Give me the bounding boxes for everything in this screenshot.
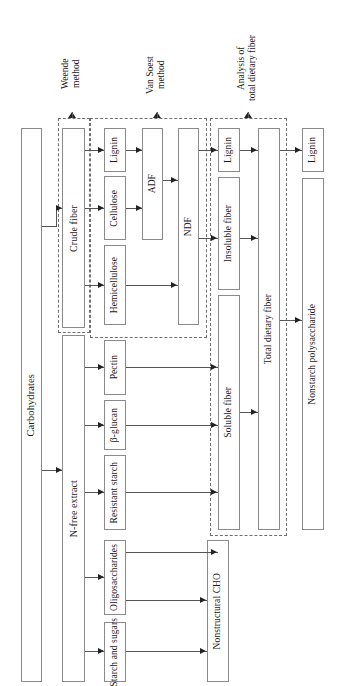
caption-van-soest-method: Van Soest method [145,40,171,110]
arrow-soluble-from-pectin [211,364,217,370]
arrow-nonstarch-polysaccharide [295,317,301,323]
node-label: Insoluble fiber [224,205,234,262]
node-label: Lignin [308,137,318,163]
caption-weende-method: Weende method [60,40,86,108]
arrow-lignin-2 [211,147,217,153]
node-carbohydrates[interactable]: Carbohydrates [21,128,42,682]
arrow-soluble-from-resistant-starch [211,489,217,495]
edge-oligos-to-soluble [126,552,218,553]
arrow-nonstructural-from-starch-sugars [200,648,206,654]
node-label: Lignin [110,137,120,163]
edge-beta-glucan-to-soluble [126,425,218,426]
node-nonstructural-cho[interactable]: Nonstructural CHO [207,540,229,682]
node-ndf[interactable]: NDF [178,128,199,325]
node-label: Oligosaccharides [110,544,120,611]
edge-carb-to-crude-fiber-riser [56,208,57,227]
edge-starch-sugars-to-nonstructural [126,651,207,652]
edge-pectin-to-soluble [126,367,218,368]
arrow-ndf-from-adf [171,177,177,183]
node-hemicellulose[interactable]: Hemicellulose [104,245,126,325]
node-label: NDF [184,217,194,236]
caption-stem-total-dietary-fiber [248,112,249,118]
node-label: ADF [148,174,158,193]
edge-carb-to-crude-fiber [42,226,56,227]
node-label: Nonstructural CHO [213,573,223,649]
node-lignin-1[interactable]: Lignin [104,128,126,172]
edge-oligos-to-nonstructural [126,600,207,601]
node-label: Crude fiber [69,205,79,252]
arrow-soluble-from-beta-glucan [211,422,217,428]
node-crude-fiber[interactable]: Crude fiber [62,128,85,328]
node-label: Lignin [224,137,234,163]
node-nonstarch-polysaccharide[interactable]: Nonstarch polysaccharide [302,178,324,530]
node-lignin-3[interactable]: Lignin [302,128,324,172]
arrow-adf-from-lignin [136,147,142,153]
node-label: Nonstarch polysaccharide [308,304,318,405]
node-label: Soluble fiber [224,387,234,438]
edge-resistant-starch-to-soluble [126,492,218,493]
node-cellulose[interactable]: Cellulose [104,176,126,240]
caption-stem-weende [72,112,73,118]
node-label: N-free extract [69,480,79,537]
node-total-dietary-fiber[interactable]: Total dietary fiber [258,128,280,530]
node-soluble-fiber[interactable]: Soluble fiber [218,295,240,530]
node-label: Cellulose [110,190,120,227]
node-label: Resistant starch [110,462,120,524]
arrow-nonstructural-from-oligos [200,597,206,603]
arrow-tdf-from-soluble [251,409,257,415]
node-adf[interactable]: ADF [142,128,163,240]
node-insoluble-fiber[interactable]: Insoluble fiber [218,177,240,290]
node-lignin-2[interactable]: Lignin [218,128,240,172]
node-label: Total dietary fiber [264,294,274,364]
node-resistant-starch[interactable]: Resistant starch [104,455,126,530]
arrow-ndf-from-hemicellulose [171,282,177,288]
arrow-insoluble-fiber [211,235,217,241]
node-label: Pectin [110,355,120,379]
node-oligosaccharides[interactable]: Oligosaccharides [104,540,126,615]
arrow-tdf-from-lignin2 [251,147,257,153]
node-label: Hemicellulose [110,257,120,313]
caption-analysis-total-dietary-fiber: Analysis of total dietary fiber [236,26,262,110]
node-label: Carbohydrates [26,374,37,437]
node-starch-and-sugars[interactable]: Starch and sugars [104,622,126,682]
node-n-free-extract[interactable]: N-free extract [62,335,85,682]
node-label: Starch and sugars [110,618,120,686]
arrow-soluble-from-oligos [211,549,217,555]
arrow-lignin-3 [295,147,301,153]
arrow-tdf-from-insoluble [251,235,257,241]
node-label: β-glucan [110,408,120,442]
node-beta-glucan[interactable]: β-glucan [104,400,126,450]
node-pectin[interactable]: Pectin [104,340,126,395]
arrow-adf-from-cellulose [136,205,142,211]
caption-stem-van-soest [157,112,158,118]
